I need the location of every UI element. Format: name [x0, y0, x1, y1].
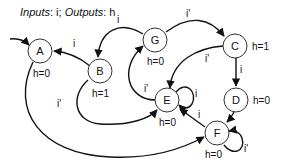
- state-e: E: [155, 88, 179, 112]
- edge-start-a: [10, 39, 29, 45]
- label-g-c: i': [186, 8, 190, 19]
- edge-d-f: [227, 112, 234, 122]
- state-diagram: i i i' i' i i' i i' i i' A B G C D E F h…: [0, 0, 281, 164]
- edge-g-c: [166, 20, 224, 36]
- output-b: h=1: [92, 88, 109, 99]
- state-d-label: D: [232, 94, 240, 106]
- state-b-label: B: [96, 65, 103, 77]
- state-f-label: F: [214, 127, 221, 139]
- output-c: h=1: [252, 41, 269, 52]
- label-c-d: i: [240, 64, 242, 75]
- label-c-e: i': [205, 53, 209, 64]
- edge-c-e: [170, 46, 223, 88]
- label-b-e: i': [57, 98, 61, 109]
- state-e-label: E: [163, 94, 170, 106]
- label-f-f: i': [244, 143, 248, 154]
- output-a: h=0: [33, 68, 50, 79]
- state-c: C: [223, 34, 247, 58]
- label-b-a: i: [73, 38, 75, 49]
- edge-a-f: [25, 62, 204, 157]
- state-g-label: G: [151, 34, 160, 46]
- label-f-e: i: [198, 109, 200, 120]
- output-d: h=0: [253, 95, 270, 106]
- edge-b-a: [54, 51, 90, 66]
- state-c-label: C: [231, 40, 239, 52]
- output-e: h=0: [159, 117, 176, 128]
- edge-e-g: [129, 46, 155, 100]
- state-g: G: [143, 28, 167, 52]
- label-e-g: i': [144, 83, 148, 94]
- state-d: D: [224, 88, 248, 112]
- output-f: h=0: [205, 149, 222, 160]
- state-a-label: A: [36, 45, 44, 57]
- state-f: F: [205, 121, 229, 145]
- edge-f-e: [180, 109, 205, 127]
- label-g-b: i: [117, 14, 119, 25]
- state-b: B: [88, 59, 112, 83]
- output-g: h=0: [147, 56, 164, 67]
- label-e-e: i: [195, 88, 197, 99]
- state-a: A: [28, 39, 52, 63]
